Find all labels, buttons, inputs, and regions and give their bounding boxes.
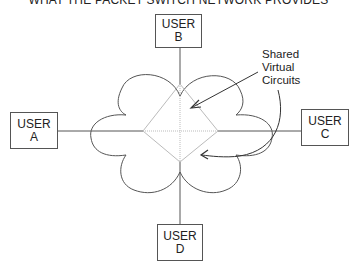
user-d-label: USER [163,230,196,243]
user-b-box: USER B [155,14,202,48]
annotation-line-1: Shared [262,48,300,61]
user-a-id: A [30,131,38,144]
user-c-box: USER C [301,109,349,146]
network-cloud-shape [91,75,273,193]
user-a-box: USER A [10,112,58,149]
user-a-label: USER [17,118,50,131]
annotation-line-3: Circuits [262,74,300,87]
user-c-id: C [321,128,330,141]
user-c-label: USER [308,115,341,128]
user-d-id: D [176,243,185,256]
annotation-line-2: Virtual [262,61,300,74]
shared-virtual-circuits-label: Shared Virtual Circuits [262,48,300,87]
user-d-box: USER D [157,224,203,261]
user-b-id: B [174,31,182,44]
